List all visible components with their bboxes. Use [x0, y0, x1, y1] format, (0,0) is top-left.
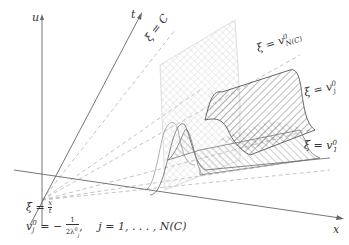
formula-index-range: j = 1, . . . , N(C): [98, 220, 186, 233]
formula-vj-definition: v0j = − 1 2λ0j , j = 1, . . . , N(C): [26, 216, 186, 239]
formula-v-scripts: 0j: [32, 220, 36, 234]
formula-fraction-x-t: x t: [48, 200, 52, 215]
x-axis-label: x: [333, 223, 340, 236]
fraction-num: 1: [66, 216, 80, 225]
fraction-den: 2λ: [66, 228, 75, 236]
v-sub: j: [32, 227, 36, 234]
label-xi-c: ξ = C: [142, 11, 171, 44]
label-xi-vj: ξ = v0j: [303, 79, 339, 101]
fraction-den: t: [48, 208, 52, 215]
formula-fraction-lambda: 1 2λ0j: [66, 216, 80, 239]
u-axis-label: u: [32, 11, 39, 24]
t-axis-label: t: [131, 8, 136, 21]
formula-xi-lhs: ξ =: [26, 201, 45, 214]
label-xi-vnc: ξ = v0N(C): [255, 28, 304, 57]
formula-eq: = −: [40, 220, 62, 233]
diagram-canvas: u t x ξ = C ξ = v0N(C) ξ = v0j ξ = v01: [0, 0, 349, 245]
label-xi-v1: ξ = v01: [304, 139, 337, 154]
svg-text:ξ = v01: ξ = v01: [304, 139, 337, 154]
svg-text:ξ = v0j: ξ = v0j: [303, 79, 339, 101]
formula-xi-definition: ξ = x t: [26, 200, 52, 215]
lambda-sub: j: [78, 232, 80, 238]
svg-text:ξ = v0N(C): ξ = v0N(C): [255, 28, 304, 57]
